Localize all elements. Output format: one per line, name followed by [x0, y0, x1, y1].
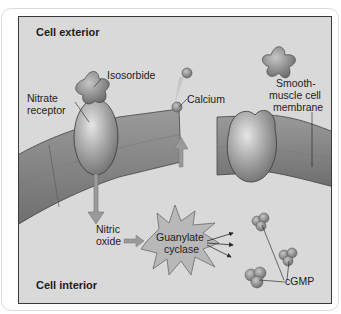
diagram-artwork [19, 17, 331, 303]
calcium-label: Calcium [187, 93, 225, 105]
cgmp-label: cGMP [285, 275, 314, 287]
nitric-oxide-label-line1: Nitric [96, 223, 120, 235]
isosorbide-label: Isosorbide [107, 69, 155, 81]
calcium-ion [182, 68, 192, 78]
nitric-oxide-to-cyclase-arrow [124, 235, 144, 247]
guanylate-cyclase-label-line2: cyclase [164, 243, 199, 255]
membrane-label-line3: membrane [273, 101, 323, 113]
cell-interior-label: Cell interior [36, 279, 97, 291]
nitrate-receptor-label-line1: Nitrate [27, 92, 58, 104]
isosorbide-molecule [76, 72, 110, 104]
calcium-ion [172, 102, 182, 112]
nitric-oxide-label-line2: oxide [96, 235, 121, 247]
cell-exterior-label: Cell exterior [36, 26, 100, 38]
membrane-label-line1: Smooth- [276, 77, 316, 89]
guanylate-cyclase-label-line1: Guanylate [156, 231, 204, 243]
diagram-panel: Cell exterior Isosorbide Nitrate recepto… [18, 16, 332, 304]
nitrate-receptor-label-line2: receptor [27, 104, 66, 116]
isosorbide-molecule-free [262, 47, 295, 78]
calcium-channel [227, 110, 276, 182]
membrane-label-line2: muscle cell [269, 89, 321, 101]
